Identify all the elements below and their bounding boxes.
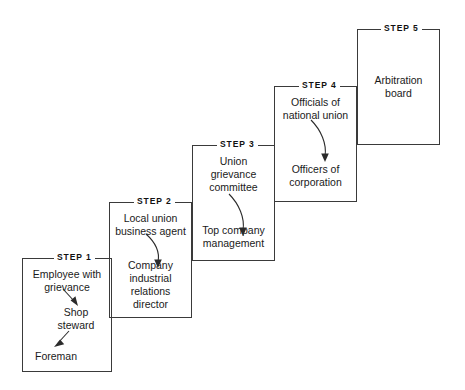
step-2-arrow-icon: [143, 232, 183, 280]
grievance-procedure-diagram: STEP 5 Arbitration board STEP 4 Official…: [0, 0, 465, 390]
step-3-label: STEP 3: [217, 139, 258, 149]
step-3-arrow-icon: [225, 192, 265, 242]
step-4-arrow-icon: [307, 118, 347, 168]
step-2-label: STEP 2: [134, 196, 175, 206]
arbitration-board-text: Arbitration board: [357, 74, 440, 100]
step-5-label: STEP 5: [381, 23, 422, 33]
step-4-label: STEP 4: [299, 80, 340, 90]
step-1-arrow-2-icon: [52, 330, 82, 354]
step-1-arrow-1-icon: [62, 288, 92, 312]
union-grievance-committee-text: Union grievance committee: [192, 155, 275, 194]
step-1-label: STEP 1: [54, 252, 95, 262]
